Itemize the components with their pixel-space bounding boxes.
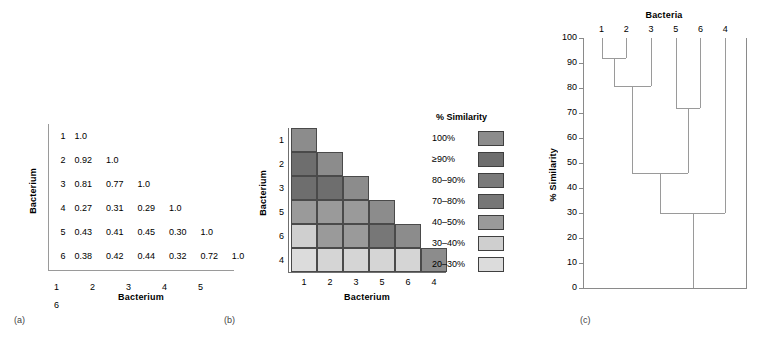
legend-item-label: 80–90% bbox=[432, 175, 478, 185]
panel-c-plot-frame bbox=[583, 38, 747, 289]
legend-item-swatch bbox=[478, 215, 504, 230]
panel-b-row-label: 3 bbox=[272, 176, 284, 200]
panel-c-y-tickmark bbox=[579, 288, 584, 289]
panel-c-y-tick: 80 bbox=[555, 83, 577, 92]
panel-b-row-label: 4 bbox=[272, 248, 284, 272]
panel-c-y-tick: 60 bbox=[555, 133, 577, 142]
panel-b-row-label: 5 bbox=[272, 200, 284, 224]
panel-c-y-tick: 10 bbox=[555, 258, 577, 267]
panel-a-row-label: 5 bbox=[52, 220, 73, 244]
panel-c-y-tickmark bbox=[579, 138, 584, 139]
panel-c-leaf-label: 2 bbox=[618, 24, 634, 34]
panel-a-cell: 0.29 bbox=[135, 196, 166, 220]
panel-a-cell: 0.30 bbox=[167, 220, 198, 244]
panel-b-x-tick: 5 bbox=[369, 277, 395, 287]
panel-b-cell bbox=[343, 200, 369, 224]
panel-a-x-axis-title: Bacterium bbox=[48, 292, 234, 302]
panel-c-leaf-label: 1 bbox=[594, 24, 610, 34]
panel-a-cell bbox=[104, 124, 135, 148]
panel-b-label: (b) bbox=[224, 315, 235, 325]
panel-a-cell: 1.0 bbox=[167, 196, 198, 220]
panel-b-x-tick: 1 bbox=[291, 277, 317, 287]
panel-b-cell bbox=[291, 248, 317, 272]
panel-c-y-tickmark bbox=[579, 163, 584, 164]
panel-c-leaf-label: 6 bbox=[692, 24, 708, 34]
panel-b-cell bbox=[317, 224, 343, 248]
panel-a-cell: 0.38 bbox=[73, 244, 104, 268]
panel-c-leaf-label: 5 bbox=[668, 24, 684, 34]
panel-a-cell: 0.81 bbox=[73, 172, 104, 196]
legend-item-label: ≥90% bbox=[432, 154, 478, 164]
panel-b-cell bbox=[343, 224, 369, 248]
panel-a-cell: 0.27 bbox=[73, 196, 104, 220]
panel-b-row bbox=[291, 152, 447, 176]
legend-title: % Similarity bbox=[436, 112, 542, 122]
panel-a-cell: 0.32 bbox=[167, 244, 198, 268]
legend-item: 30–40% bbox=[432, 234, 542, 252]
panel-b-cell bbox=[369, 248, 395, 272]
panel-b-cell bbox=[291, 224, 317, 248]
legend-items: 100%≥90%80–90%70–80%40–50%30–40%20–30% bbox=[432, 129, 542, 273]
panel-a-similarity-matrix: Bacterium 11.020.921.030.810.771.040.270… bbox=[0, 0, 260, 338]
panel-b-x-tick: 2 bbox=[317, 277, 343, 287]
dendrogram-link bbox=[614, 58, 615, 86]
panel-a-x-tick: 3 bbox=[124, 282, 160, 292]
panel-a-row-label: 4 bbox=[52, 196, 73, 220]
panel-b-x-axis-title: Bacterium bbox=[288, 292, 446, 302]
panel-a-cell: 1.0 bbox=[73, 124, 104, 148]
panel-a-row-label: 3 bbox=[52, 172, 73, 196]
table-row: 30.810.771.0 bbox=[52, 172, 260, 196]
legend-item: 40–50% bbox=[432, 213, 542, 231]
panel-b-cell bbox=[343, 248, 369, 272]
panel-c-y-tick: 40 bbox=[555, 183, 577, 192]
legend-item-label: 30–40% bbox=[432, 238, 478, 248]
panel-a-y-axis-title: Bacterium bbox=[28, 168, 38, 214]
dendrogram-link bbox=[688, 108, 689, 173]
dendrogram-link bbox=[602, 38, 603, 58]
panel-b-row-label: 2 bbox=[272, 152, 284, 176]
panel-c-y-tickmark bbox=[579, 188, 584, 189]
panel-b-cell bbox=[317, 176, 343, 200]
panel-c-y-tickmark bbox=[579, 88, 584, 89]
panel-a-cell bbox=[198, 148, 229, 172]
panel-a-row-label: 1 bbox=[52, 124, 73, 148]
panel-a-cell: 0.41 bbox=[104, 220, 135, 244]
panel-c-leaf-label: 3 bbox=[643, 24, 659, 34]
legend-item-label: 20–30% bbox=[432, 259, 478, 269]
legend-item: ≥90% bbox=[432, 150, 542, 168]
panel-a-cell bbox=[135, 124, 166, 148]
panel-a-cell bbox=[167, 172, 198, 196]
panel-a-cell bbox=[167, 148, 198, 172]
dendrogram-link bbox=[676, 38, 677, 108]
panel-c-y-tickmark bbox=[579, 38, 584, 39]
panel-c-label: (c) bbox=[580, 315, 591, 325]
panel-b-cell-grid bbox=[291, 128, 447, 272]
panel-b-x-tick-labels: 123564 bbox=[291, 277, 447, 287]
panel-a-row-label: 6 bbox=[52, 244, 73, 268]
panel-c-y-tick: 50 bbox=[555, 158, 577, 167]
panel-c-dendrogram: Bacteria % Similarity 100908070605040302… bbox=[540, 0, 765, 338]
legend-item-label: 70–80% bbox=[432, 196, 478, 206]
panel-c-y-tickmark bbox=[579, 238, 584, 239]
panel-b-y-axis-title: Bacterium bbox=[258, 170, 268, 216]
dendrogram-link bbox=[626, 38, 627, 58]
panel-a-cell bbox=[198, 172, 229, 196]
dendrogram-link bbox=[700, 38, 701, 108]
panel-a-cell: 1.0 bbox=[198, 220, 229, 244]
panel-a-cell: 0.92 bbox=[73, 148, 104, 172]
panel-b-cell bbox=[291, 152, 317, 176]
panel-b-cell bbox=[395, 248, 421, 272]
panel-c-y-tick: 0 bbox=[555, 283, 577, 292]
dendrogram-link bbox=[693, 213, 694, 288]
panel-a-cell: 0.44 bbox=[135, 244, 166, 268]
panel-b-row bbox=[291, 224, 447, 248]
legend-item-swatch bbox=[478, 173, 504, 188]
panel-a-cell: 0.72 bbox=[198, 244, 229, 268]
panel-c-y-axis-title: % Similarity bbox=[548, 148, 558, 201]
panel-a-x-tick: 4 bbox=[160, 282, 196, 292]
legend-item-swatch bbox=[478, 152, 504, 167]
dendrogram-link bbox=[651, 38, 652, 86]
panel-b-x-tick: 6 bbox=[395, 277, 421, 287]
panel-b-cell bbox=[369, 224, 395, 248]
panel-b-cell bbox=[317, 200, 343, 224]
